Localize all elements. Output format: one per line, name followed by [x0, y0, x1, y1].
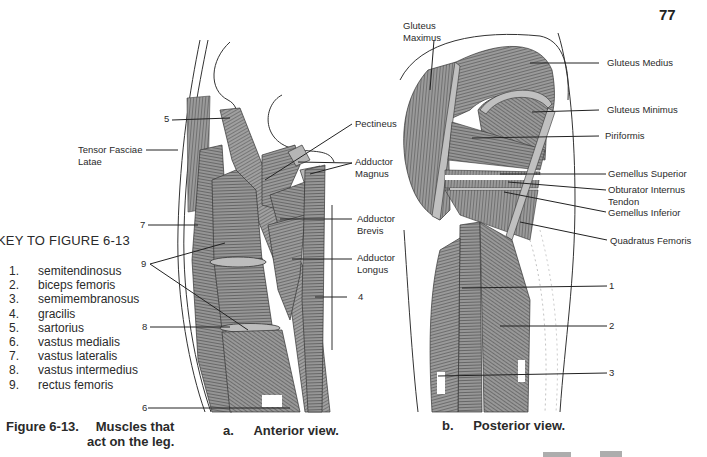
- key-item: 1.semitendinosus: [9, 264, 139, 278]
- label-gluteus-medius: Gluteus Medius: [607, 57, 673, 69]
- anterior-view-caption: a. Anterior view.: [223, 423, 339, 438]
- label-5: 5: [164, 113, 169, 124]
- key-list: 1.semitendinosus 2.biceps femoris 3.semi…: [9, 264, 139, 392]
- label-1: 1: [609, 280, 614, 291]
- key-item: 5.sartorius: [9, 321, 139, 335]
- scan-artifact: [600, 451, 622, 457]
- page-number: 77: [659, 6, 676, 23]
- anterior-view-illustration: [178, 40, 334, 412]
- label-8: 8: [142, 321, 147, 332]
- label-adductor-brevis: Adductor Brevis: [357, 213, 395, 237]
- key-item: 9.rectus femoris: [9, 378, 139, 392]
- figure-caption-number: Figure 6-13.: [6, 419, 79, 434]
- label-adductor-longus: Adductor Longus: [357, 252, 395, 276]
- label-3: 3: [609, 367, 614, 378]
- key-item: 7.vastus lateralis: [9, 349, 139, 363]
- key-title: KEY TO FIGURE 6-13: [0, 233, 130, 248]
- key-item: 2.biceps femoris: [9, 278, 139, 292]
- label-pectineus: Pectineus: [355, 118, 397, 130]
- label-6: 6: [142, 402, 147, 413]
- key-item: 8.vastus intermedius: [9, 363, 139, 377]
- key-item: 4.gracilis: [9, 307, 139, 321]
- label-4: 4: [358, 291, 363, 302]
- label-piriformis: Piriformis: [605, 130, 645, 142]
- label-gluteus-minimus: Gluteus Minimus: [607, 104, 678, 116]
- key-item: 3.semimembranosus: [9, 292, 139, 306]
- posterior-view-illustration: [400, 33, 575, 412]
- label-obturator-internus-tendon: Obturator Internus Tendon: [608, 184, 685, 208]
- label-7: 7: [140, 219, 145, 230]
- label-quadratus-femoris: Quadratus Femoris: [610, 235, 691, 247]
- scan-artifact: [543, 452, 571, 457]
- label-tensor-fasciae-latae: Tensor Fasciae Latae: [78, 144, 142, 168]
- label-gemellus-superior: Gemellus Superior: [608, 168, 687, 180]
- label-gluteus-maximus: Gluteus Maximus: [403, 20, 441, 44]
- label-gemellus-inferior: Gemellus Inferior: [608, 207, 680, 219]
- label-2: 2: [609, 320, 614, 331]
- figure-caption-text: Muscles that act on the leg.: [87, 419, 174, 449]
- label-9: 9: [141, 258, 146, 269]
- posterior-view-caption: b. Posterior view.: [442, 418, 565, 433]
- key-item: 6.vastus medialis: [9, 335, 139, 349]
- label-adductor-magnus: Adductor Magnus: [355, 156, 393, 180]
